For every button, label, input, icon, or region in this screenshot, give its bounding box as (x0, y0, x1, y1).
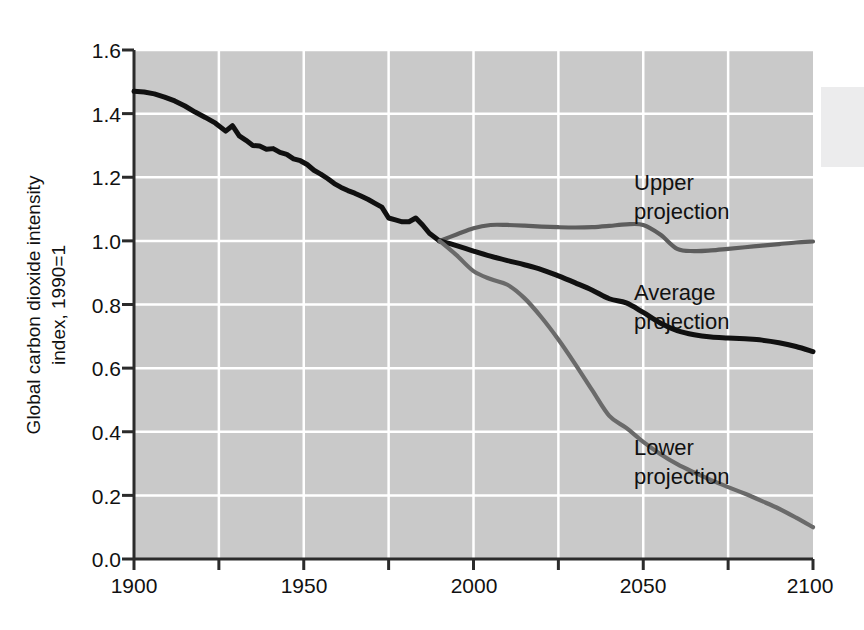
lower-projection-label-line2: projection (634, 464, 729, 489)
lower-projection-label-line1: Lower (634, 435, 694, 460)
y-tick-label-group: 1.6 1.4 1.2 1.0 0.8 0.6 0.4 0.2 0.0 (92, 39, 122, 571)
y-tick-label-0-8: 0.8 (92, 294, 121, 317)
y-tick-label-0-0: 0.0 (92, 548, 121, 571)
x-tick-label-1900: 1900 (111, 574, 158, 597)
x-tick-label-2050: 2050 (620, 574, 667, 597)
y-tick-label-1-6: 1.6 (92, 39, 121, 62)
average-projection-label-line1: Average (634, 280, 716, 305)
y-axis-title-line2: index, 1990=1 (48, 245, 69, 365)
x-tick-label-1950: 1950 (281, 574, 328, 597)
y-tick-label-0-2: 0.2 (92, 485, 121, 508)
y-tick-label-0-6: 0.6 (92, 357, 121, 380)
x-tick-label-2000: 2000 (451, 574, 498, 597)
y-tick-label-1-0: 1.0 (92, 230, 121, 253)
chart-figure: 1.6 1.4 1.2 1.0 0.8 0.6 0.4 0.2 0.0 1900… (0, 0, 864, 630)
upper-projection-label-line1: Upper (634, 170, 694, 195)
x-tick-label-2100: 2100 (787, 574, 834, 597)
average-projection-label-line2: projection (634, 309, 729, 334)
y-tick-label-0-4: 0.4 (92, 421, 122, 444)
y-axis-title-line1: Global carbon dioxide intensity (23, 175, 44, 434)
y-tick-label-1-2: 1.2 (92, 166, 121, 189)
co2-intensity-line-chart: 1.6 1.4 1.2 1.0 0.8 0.6 0.4 0.2 0.0 1900… (0, 0, 864, 630)
upper-projection-label-line2: projection (634, 199, 729, 224)
y-tick-label-1-4: 1.4 (92, 103, 122, 126)
